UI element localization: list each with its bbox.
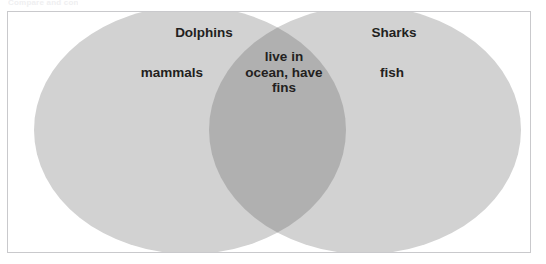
intersection-line-3: fins [236,80,332,96]
set-item-fish: fish [344,65,440,80]
diagram-frame: Dolphins Sharks mammals fish live in oce… [7,11,531,253]
set-title-dolphins: Dolphins [156,25,252,40]
set-title-sharks: Sharks [346,25,442,40]
set-item-mammals: mammals [118,65,226,80]
venn-diagram-screenshot: Compare and contrast Dolphins Sharks mam… [0,0,546,264]
intersection-line-1: live in [236,49,332,65]
venn-shapes [8,12,530,252]
intersection-line-2: ocean, have [236,65,332,81]
intersection-items: live in ocean, have fins [236,49,332,96]
clipped-header-text: Compare and contrast [8,0,78,7]
